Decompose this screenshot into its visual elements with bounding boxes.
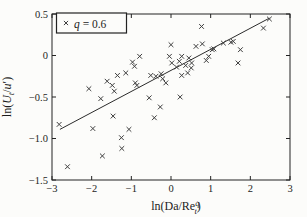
axis-ticks bbox=[52, 14, 290, 180]
data-point-marker bbox=[261, 26, 265, 30]
data-point-marker bbox=[100, 154, 104, 158]
data-point-marker bbox=[124, 71, 128, 75]
y-tick-label: −1.0 bbox=[29, 133, 48, 144]
data-point-marker bbox=[120, 146, 124, 150]
y-tick-label: 0.5 bbox=[35, 9, 48, 20]
y-axis-title: ln(Ut/u′) bbox=[0, 77, 16, 117]
data-point-marker bbox=[127, 127, 131, 131]
data-point-marker bbox=[154, 74, 158, 78]
data-points bbox=[57, 17, 271, 169]
data-point-marker bbox=[105, 79, 109, 83]
legend: q = 0.6 bbox=[57, 13, 127, 33]
y-tick-label: 0 bbox=[43, 50, 48, 61]
data-point-marker bbox=[164, 81, 168, 85]
data-point-marker bbox=[207, 54, 211, 58]
data-point-marker bbox=[200, 42, 204, 46]
data-point-marker bbox=[161, 77, 165, 81]
data-point-marker bbox=[187, 56, 191, 60]
data-point-marker bbox=[180, 73, 184, 77]
data-point-marker bbox=[115, 73, 119, 77]
data-point-marker bbox=[111, 114, 115, 118]
data-point-marker bbox=[119, 136, 123, 140]
figure-scatter-plot: −3−2−101230.50−0.5−1.0−1.5q = 0.6ln(Da/R… bbox=[0, 0, 307, 217]
y-tick-label: −1.5 bbox=[29, 175, 48, 186]
data-point-marker bbox=[65, 165, 69, 169]
data-point-marker bbox=[204, 58, 208, 62]
data-point-marker bbox=[180, 54, 184, 58]
data-point-marker bbox=[87, 87, 91, 91]
legend-label: q = 0.6 bbox=[74, 18, 107, 31]
data-point-marker bbox=[57, 122, 61, 126]
data-point-marker bbox=[184, 63, 188, 67]
y-tick-label: −0.5 bbox=[29, 92, 48, 103]
data-point-marker bbox=[190, 61, 194, 65]
x-tick-label: −2 bbox=[86, 183, 97, 194]
data-point-marker bbox=[91, 126, 95, 130]
x-tick-labels: −3−2−10123 bbox=[46, 183, 292, 194]
data-point-marker bbox=[177, 59, 181, 63]
data-point-marker bbox=[112, 89, 116, 93]
x-tick-label: 0 bbox=[168, 183, 173, 194]
data-point-marker bbox=[186, 71, 190, 75]
data-point-marker bbox=[194, 44, 198, 48]
x-axis-title: ln(Da/Reqt) bbox=[151, 198, 201, 216]
x-tick-label: 3 bbox=[287, 183, 292, 194]
data-point-marker bbox=[170, 61, 174, 65]
data-point-marker bbox=[99, 97, 103, 101]
data-point-marker bbox=[130, 60, 134, 64]
data-point-marker bbox=[152, 116, 156, 120]
data-point-marker bbox=[158, 105, 162, 109]
x-tick-label: 2 bbox=[248, 183, 253, 194]
data-point-marker bbox=[238, 48, 242, 52]
data-point-marker bbox=[132, 64, 136, 68]
y-tick-labels: 0.50−0.5−1.0−1.5 bbox=[29, 9, 48, 186]
scatter-plot-canvas: −3−2−101230.50−0.5−1.0−1.5q = 0.6ln(Da/R… bbox=[0, 0, 307, 217]
data-point-marker bbox=[149, 73, 153, 77]
fit-line bbox=[60, 18, 269, 129]
data-point-marker bbox=[189, 66, 193, 70]
data-point-marker bbox=[169, 43, 173, 47]
x-tick-label: 1 bbox=[208, 183, 213, 194]
data-point-marker bbox=[199, 24, 203, 28]
data-point-marker bbox=[236, 61, 240, 65]
x-tick-label: −1 bbox=[126, 183, 137, 194]
axis-box bbox=[52, 14, 290, 180]
data-point-marker bbox=[147, 96, 151, 100]
x-tick-label: −3 bbox=[46, 183, 57, 194]
data-point-marker bbox=[178, 95, 182, 99]
data-point-marker bbox=[110, 83, 114, 87]
data-point-marker bbox=[167, 54, 171, 58]
data-point-marker bbox=[138, 54, 142, 58]
